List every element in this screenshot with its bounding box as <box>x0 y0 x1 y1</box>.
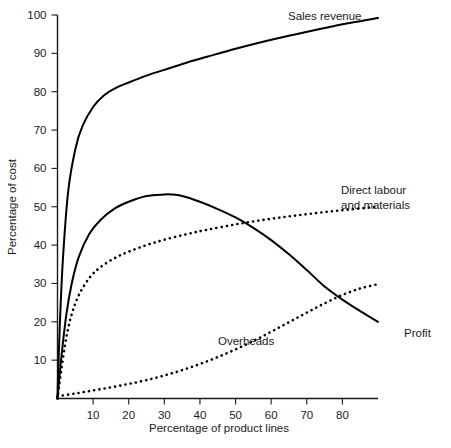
series-label-direct-labour-line1: Direct labour <box>341 184 406 196</box>
y-axis-title: Percentage of cost <box>6 158 18 255</box>
y-axis-tick-marks <box>52 15 58 360</box>
x-axis-title: Percentage of product lines <box>149 422 289 434</box>
x-tick-label: 10 <box>87 409 100 421</box>
y-axis-tick-labels: 102030405060708090100 <box>27 9 46 366</box>
y-tick-label: 10 <box>34 354 47 366</box>
x-tick-label: 60 <box>265 409 278 421</box>
y-tick-label: 40 <box>34 239 47 251</box>
y-tick-label: 70 <box>34 124 47 136</box>
series-label-profit: Profit <box>404 327 432 339</box>
x-tick-label: 30 <box>158 409 171 421</box>
series-label-direct-labour-line2: and materials <box>341 199 410 211</box>
x-axis-tick-labels: 1020304050607080 <box>87 409 349 421</box>
y-tick-label: 80 <box>34 86 47 98</box>
x-tick-label: 50 <box>229 409 242 421</box>
series-label-overheads: Overheads <box>218 335 275 347</box>
y-tick-label: 30 <box>34 277 47 289</box>
x-tick-label: 70 <box>300 409 313 421</box>
y-tick-label: 100 <box>27 9 46 21</box>
y-tick-label: 60 <box>34 162 47 174</box>
x-tick-label: 80 <box>336 409 349 421</box>
y-tick-label: 90 <box>34 47 47 59</box>
series-label-sales-revenue: Sales revenue <box>288 10 362 22</box>
x-tick-label: 20 <box>122 409 135 421</box>
x-axis-tick-marks <box>93 399 342 405</box>
series-line-profit <box>58 194 379 398</box>
y-tick-label: 50 <box>34 201 47 213</box>
chart-canvas: 102030405060708090100 1020304050607080 S… <box>0 0 451 448</box>
x-tick-label: 40 <box>194 409 207 421</box>
chart-figure: 102030405060708090100 1020304050607080 S… <box>0 0 451 448</box>
series-line-direct-labour-and-materials <box>58 207 379 399</box>
y-tick-label: 20 <box>34 316 47 328</box>
